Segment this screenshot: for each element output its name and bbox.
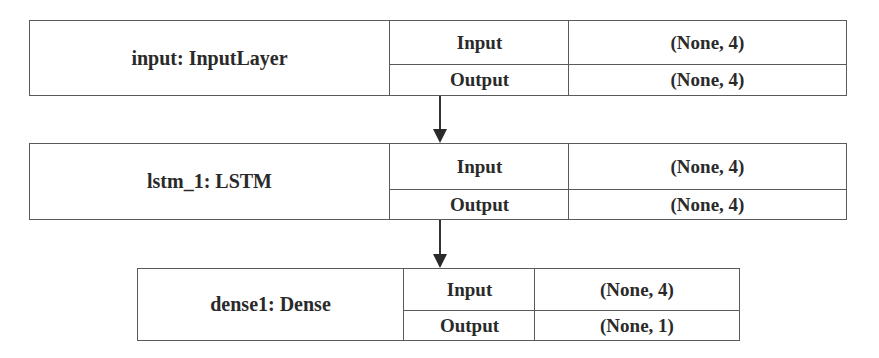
- input-label: Input: [390, 21, 569, 65]
- input-shape: (None, 4): [569, 144, 846, 190]
- edge-arrow-lstm-to-dense: [439, 220, 441, 255]
- input-shape: (None, 4): [569, 21, 846, 65]
- output-shape: (None, 4): [569, 65, 846, 95]
- layer-node-input: input: InputLayer Input (None, 4) Output…: [29, 20, 847, 96]
- layer-name: dense1: Dense: [138, 269, 404, 340]
- edge-arrow-input-to-lstm: [439, 96, 441, 130]
- input-shape: (None, 4): [535, 269, 739, 311]
- input-label: Input: [390, 144, 569, 190]
- output-label: Output: [404, 311, 535, 340]
- layer-node-lstm: lstm_1: LSTM Input (None, 4) Output (Non…: [29, 143, 847, 220]
- output-label: Output: [390, 65, 569, 95]
- output-shape: (None, 4): [569, 190, 846, 219]
- arrow-head-icon: [433, 129, 447, 143]
- layer-name: lstm_1: LSTM: [30, 144, 390, 219]
- layer-name: input: InputLayer: [30, 21, 390, 95]
- output-label: Output: [390, 190, 569, 219]
- output-shape: (None, 1): [535, 311, 739, 340]
- layer-node-dense: dense1: Dense Input (None, 4) Output (No…: [137, 268, 740, 341]
- input-label: Input: [404, 269, 535, 311]
- arrow-head-icon: [433, 254, 447, 268]
